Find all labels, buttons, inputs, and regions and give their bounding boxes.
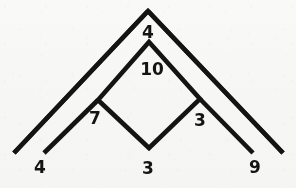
label-left-7: 7 (89, 110, 101, 127)
label-apex-4: 4 (142, 24, 154, 41)
label-right-3: 3 (194, 112, 206, 129)
inner-right-arm (200, 99, 253, 153)
figure-canvas: 4 10 7 3 4 3 9 (0, 0, 296, 188)
label-bottom-right-9: 9 (249, 159, 261, 176)
label-bottom-3: 3 (142, 160, 154, 177)
label-bottom-left-4: 4 (34, 159, 46, 176)
label-diamond-10: 10 (140, 61, 164, 78)
